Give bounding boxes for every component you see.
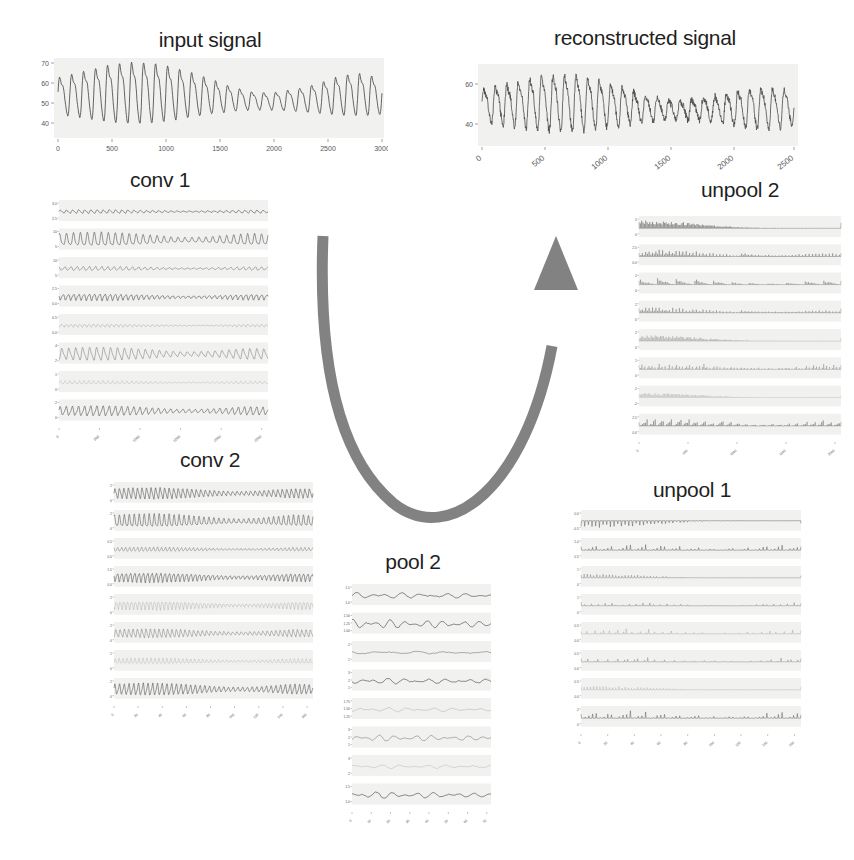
subplot-row: 10	[577, 566, 801, 587]
row-y-tick: 1	[577, 568, 579, 572]
subplot-row: 20	[55, 400, 268, 421]
svg-text:1500: 1500	[212, 145, 228, 152]
row-y-tick: 0	[635, 374, 637, 378]
x-tick-label: 0	[111, 713, 115, 717]
x-tick-label: 1000	[132, 435, 141, 443]
svg-text:3000: 3000	[374, 145, 388, 152]
panel-title-conv-1: conv 1	[45, 168, 275, 192]
row-y-tick: 0	[577, 723, 579, 727]
x-tick-label: 1500	[778, 449, 786, 457]
row-y-tick: 1	[55, 373, 57, 377]
flow-arrow-svg	[290, 218, 590, 543]
row-y-tick: 2	[348, 679, 350, 683]
x-axis-ticks: 020406080100120140160	[578, 734, 795, 747]
row-y-tick: 0.0	[574, 667, 579, 671]
subplot-row: 20	[110, 622, 313, 643]
panel-title-input-signal: input signal	[0, 28, 420, 52]
x-tick-label: 0	[349, 819, 353, 823]
arrow-curve	[322, 236, 552, 517]
subplot-row: 0.50.0	[574, 650, 801, 671]
x-tick-label: 1500	[173, 435, 182, 443]
row-y-tick: -2	[634, 402, 637, 406]
pool-2-svg: 1.51.01.501.251.00213211.751.501.2532132…	[330, 580, 493, 830]
subplot-row: 0.50.0	[52, 314, 268, 335]
subplot-row: 0.50.0	[107, 538, 313, 559]
row-y-tick: 2	[348, 643, 350, 647]
row-bg	[352, 755, 491, 776]
row-y-tick: 1.5	[107, 568, 112, 572]
row-y-tick: 0	[577, 611, 579, 615]
row-y-tick: 2.5	[632, 416, 637, 420]
y-tick-marks	[51, 63, 54, 123]
row-bg	[59, 229, 268, 250]
subplot-row: 20	[635, 301, 841, 322]
subplot-row: 0.0-0.5	[573, 510, 801, 531]
row-bg	[581, 594, 801, 615]
x-tick-label: 2000	[827, 449, 835, 457]
row-y-tick: 0	[635, 233, 637, 237]
x-tick-label: 2500	[254, 435, 263, 443]
plot-conv-2: 20200.50.01.50.0202010200204060801001201…	[100, 478, 315, 723]
subplot-row: 50	[635, 216, 841, 237]
row-y-tick: 0	[110, 695, 112, 699]
row-bg	[639, 273, 841, 294]
row-y-tick: 0.0	[574, 639, 579, 643]
arrow-head-icon	[534, 236, 578, 290]
subplot-row: 21	[348, 641, 491, 662]
plot-pool-2: 1.51.01.501.251.00213211.751.501.2532132…	[330, 580, 493, 830]
row-y-tick: 3	[348, 728, 350, 732]
row-y-tick: 0	[110, 611, 112, 615]
svg-text:500: 500	[530, 153, 546, 169]
row-y-tick: 1.25	[343, 622, 350, 626]
svg-text:500: 500	[106, 145, 118, 152]
x-tick-label: 100	[708, 741, 715, 748]
plot-reconstructed-signal: 60 40 0 500 1000 1500 2000 2500	[450, 62, 810, 177]
row-y-tick: 5	[635, 218, 637, 222]
y-axis-ticks: 60 40	[465, 81, 473, 128]
row-y-tick: 1	[110, 652, 112, 656]
row-y-tick: 0	[577, 583, 579, 587]
subplot-row: 20	[635, 273, 841, 294]
subplot-row: 20	[110, 482, 313, 503]
row-y-tick: 1.00	[343, 629, 350, 633]
row-y-tick: 2.5	[632, 246, 637, 250]
svg-text:70: 70	[41, 60, 49, 67]
row-y-tick: 0	[110, 639, 112, 643]
svg-text:60: 60	[41, 80, 49, 87]
subplot-row: -1-2	[634, 386, 841, 407]
svg-text:2000: 2000	[716, 153, 736, 171]
x-tick-label: 500	[682, 449, 689, 456]
subplot-row: 10	[577, 594, 801, 615]
row-bg	[639, 329, 841, 350]
row-y-tick: 0.5	[574, 652, 579, 656]
row-y-tick: 2.5	[52, 217, 57, 221]
svg-text:40: 40	[41, 120, 49, 127]
row-bg	[581, 678, 801, 699]
subplot-row: 0.50.0	[574, 622, 801, 643]
row-y-tick: 2	[110, 596, 112, 600]
x-tick-label: 20	[603, 741, 609, 747]
row-y-tick: 1	[348, 686, 350, 690]
x-tick-marks	[482, 147, 794, 150]
row-y-tick: 0.0	[632, 431, 637, 435]
row-y-tick: 2	[577, 708, 579, 712]
x-axis-ticks: 0 500 1000 1500 2000 2500 3000	[56, 145, 388, 152]
row-y-tick: 1	[348, 743, 350, 747]
x-tick-label: 160	[788, 741, 795, 748]
plot-area-bg	[54, 58, 384, 138]
panel-title-pool-2: pool 2	[333, 550, 493, 574]
plot-conv-1: 3.02.51051052.50.00.50.04210200500100015…	[42, 196, 270, 446]
x-tick-label: 0	[56, 435, 60, 439]
row-y-tick: 1.50	[343, 614, 350, 618]
subplot-row: 10	[635, 357, 841, 378]
row-y-tick: 1.25	[343, 715, 350, 719]
x-tick-label: 30	[405, 819, 411, 825]
row-y-tick: 1.75	[343, 700, 350, 704]
row-y-tick: 2	[348, 772, 350, 776]
svg-text:1500: 1500	[653, 153, 673, 171]
x-tick-label: 140	[277, 713, 284, 720]
conv-2-svg: 20200.50.01.50.0202010200204060801001201…	[100, 478, 315, 723]
row-y-tick: 2.5	[52, 287, 57, 291]
plot-unpool-1: 0.0-0.51.00.510100.50.00.50.00.50.020020…	[565, 506, 803, 751]
svg-text:2000: 2000	[266, 145, 282, 152]
